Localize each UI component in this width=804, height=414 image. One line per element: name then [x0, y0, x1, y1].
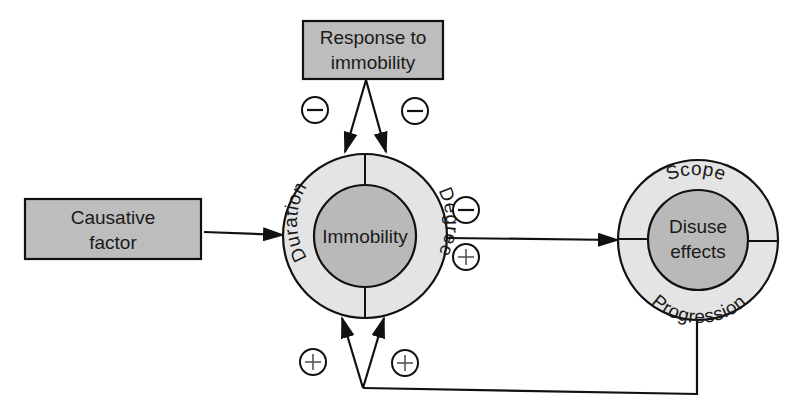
edge-feedback-to-duration [342, 318, 363, 388]
minus-sign-icon [402, 98, 428, 124]
edge-response-to-degree [366, 80, 386, 152]
causative-label-line2: factor [89, 232, 137, 253]
disuse-core [648, 190, 748, 290]
response-label-line1: Response to [320, 27, 427, 48]
minus-sign-icon [453, 197, 479, 223]
causative-label-line1: Causative [71, 207, 156, 228]
causative-factor-box: Causative factor [25, 199, 201, 259]
immobility-node: Immobility Duration Degree [280, 154, 463, 318]
minus-sign-icon [302, 97, 328, 123]
response-label-line2: immobility [331, 52, 416, 73]
edge-causative-to-immobility [204, 232, 283, 235]
edge-feedback-to-degree [363, 318, 384, 388]
plus-sign-icon [300, 349, 326, 375]
disuse-effects-node: Disuse effects Scope Progression [618, 158, 778, 327]
response-to-immobility-box: Response to immobility [303, 21, 443, 79]
immobility-core-label: Immobility [322, 226, 408, 247]
plus-sign-icon [392, 350, 418, 376]
edge-immobility-to-disuse [447, 238, 618, 240]
immobility-feedback-diagram: Response to immobility Causative factor … [0, 0, 804, 414]
disuse-core-label-line2: effects [670, 241, 726, 262]
edge-response-to-duration [345, 80, 366, 152]
disuse-core-label-line1: Disuse [669, 216, 727, 237]
plus-sign-icon [453, 244, 479, 270]
